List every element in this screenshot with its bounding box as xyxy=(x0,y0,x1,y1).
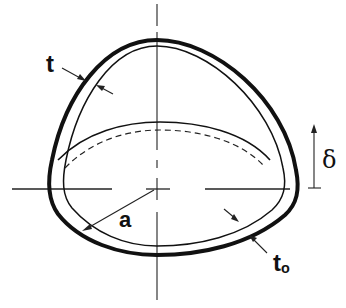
label-t0-sub: o xyxy=(281,260,290,276)
label-a: a xyxy=(119,209,131,231)
delta-arrow xyxy=(308,124,321,188)
t0-arrow-outer xyxy=(249,235,267,253)
outer-shell xyxy=(49,40,298,255)
inner-shell xyxy=(64,46,285,246)
label-t0: to xyxy=(273,251,290,276)
t0-arrow-inner xyxy=(224,209,239,222)
label-t: t xyxy=(46,52,54,76)
label-t0-main: t xyxy=(273,249,281,276)
diagram-canvas xyxy=(0,0,346,308)
t-arrow-inner xyxy=(96,85,113,94)
radius-a-arrow xyxy=(82,190,154,231)
shell-diagram: t a to δ xyxy=(0,0,346,308)
label-delta: δ xyxy=(322,148,336,172)
base-ellipse-solid xyxy=(58,122,270,160)
t-arrow-outer xyxy=(62,68,86,81)
